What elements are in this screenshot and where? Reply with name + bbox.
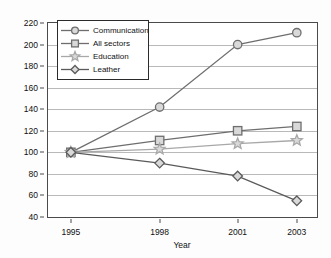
- series-line: [71, 126, 297, 152]
- x-tick-mark: [296, 219, 297, 223]
- circle-marker-icon: [60, 24, 90, 37]
- x-axis: 1995199820012003: [47, 219, 318, 241]
- y-tick-mark: [40, 195, 44, 196]
- legend-label: Leather: [90, 65, 120, 74]
- y-tick-mark: [40, 44, 44, 45]
- star-marker: [291, 135, 302, 145]
- chart-legend: CommunicationAll sectorsEducationLeather: [57, 20, 149, 80]
- circle-marker: [233, 40, 241, 48]
- legend-label: Communication: [90, 26, 149, 35]
- y-tick-label: 120: [24, 126, 38, 136]
- star-marker: [232, 138, 243, 148]
- x-tick-label: 1995: [61, 227, 80, 237]
- y-tick-label: 100: [24, 147, 38, 157]
- y-tick-mark: [40, 130, 44, 131]
- y-tick-mark: [40, 217, 44, 218]
- legend-item-communication[interactable]: Communication: [60, 24, 145, 37]
- x-tick-mark: [159, 219, 160, 223]
- legend-label: All sectors: [90, 39, 130, 48]
- y-tick-label: 200: [24, 40, 38, 50]
- x-axis-title: Year: [173, 240, 190, 250]
- y-tick-label: 40: [29, 212, 38, 222]
- x-tick-label: 2003: [287, 227, 306, 237]
- y-tick-mark: [40, 66, 44, 67]
- legend-item-all-sectors[interactable]: All sectors: [60, 37, 145, 50]
- diamond-marker: [155, 158, 165, 168]
- y-tick-label: 160: [24, 83, 38, 93]
- legend-item-leather[interactable]: Leather: [60, 63, 145, 76]
- star-marker-icon: [60, 50, 90, 63]
- circle-marker: [293, 29, 301, 37]
- diamond-marker: [71, 66, 79, 74]
- x-tick-mark: [237, 219, 238, 223]
- series-leather: [66, 148, 302, 206]
- y-tick-mark: [40, 23, 44, 24]
- circle-marker: [72, 27, 79, 34]
- series-line: [71, 140, 297, 152]
- x-tick-mark: [70, 219, 71, 223]
- y-tick-mark: [40, 109, 44, 110]
- square-marker-icon: [60, 37, 90, 50]
- x-tick-label: 1998: [150, 227, 169, 237]
- y-tick-mark: [40, 87, 44, 88]
- circle-marker: [155, 103, 163, 111]
- square-marker: [72, 40, 79, 47]
- y-tick-label: 80: [29, 169, 38, 179]
- diamond-marker: [233, 171, 243, 181]
- square-marker: [293, 122, 301, 130]
- diamond-marker: [292, 196, 302, 206]
- chart-figure: 220200180160140120100806040 Index 199519…: [0, 0, 331, 258]
- y-tick-mark: [40, 173, 44, 174]
- y-tick-label: 60: [29, 190, 38, 200]
- x-tick-label: 2001: [228, 227, 247, 237]
- series-line: [71, 152, 297, 201]
- square-marker: [233, 127, 241, 135]
- y-axis: 220200180160140120100806040: [0, 22, 44, 218]
- y-tick-label: 140: [24, 104, 38, 114]
- y-tick-label: 220: [24, 18, 38, 28]
- diamond-marker-icon: [60, 63, 90, 76]
- y-tick-label: 180: [24, 61, 38, 71]
- legend-label: Education: [90, 52, 129, 61]
- y-tick-mark: [40, 152, 44, 153]
- legend-item-education[interactable]: Education: [60, 50, 145, 63]
- star-marker: [70, 52, 80, 61]
